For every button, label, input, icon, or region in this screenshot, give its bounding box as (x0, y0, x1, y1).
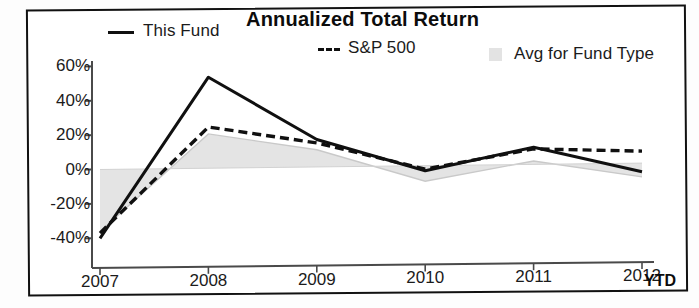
x-axis-tick-labels: 200720082009201020112012 (0, 0, 699, 308)
figure-content: Annualized Total Return This Fund S&P 50… (0, 0, 699, 308)
x-axis-suffix-ytd: YTD (644, 272, 676, 290)
x-axis-tick-label: 2011 (515, 267, 552, 287)
x-axis-tick-label: 2009 (298, 270, 336, 290)
scanned-page: Annualized Total Return This Fund S&P 50… (0, 0, 699, 308)
x-axis-tick-label: 2010 (406, 268, 444, 288)
x-axis-tick-label: 2007 (81, 272, 119, 292)
x-axis-tick-label: 2008 (189, 271, 227, 291)
